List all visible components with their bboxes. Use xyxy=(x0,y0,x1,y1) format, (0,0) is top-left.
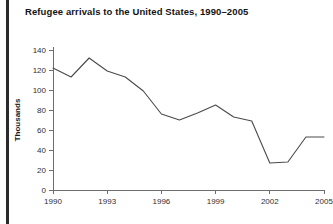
y-axis: 020406080100120140 xyxy=(33,46,53,195)
x-axis-tick-label: 2005 xyxy=(315,197,333,206)
y-axis-tick-label: 100 xyxy=(33,86,47,95)
x-axis-tick-label: 1990 xyxy=(44,197,62,206)
y-axis-label: Thousands xyxy=(13,98,22,141)
x-axis: 199019931996199920022005 xyxy=(44,190,333,206)
y-axis-tick-label: 60 xyxy=(37,126,46,135)
chart-figure: Refugee arrivals to the United States, 1… xyxy=(0,0,333,224)
y-axis-tick-label: 140 xyxy=(33,46,47,55)
line-chart-svg: 020406080100120140 199019931996199920022… xyxy=(0,0,333,224)
y-axis-tick-label: 40 xyxy=(37,146,46,155)
x-axis-tick-label: 2002 xyxy=(261,197,279,206)
y-axis-tick-label: 0 xyxy=(42,186,47,195)
x-axis-tick-label: 1999 xyxy=(207,197,225,206)
x-axis-tick-label: 1993 xyxy=(98,197,116,206)
y-axis-tick-label: 20 xyxy=(37,166,46,175)
x-axis-tick-label: 1996 xyxy=(153,197,171,206)
data-line-path xyxy=(53,58,324,163)
data-series-refugee-arrivals xyxy=(53,58,324,163)
plot-area: 020406080100120140 199019931996199920022… xyxy=(0,0,333,224)
y-axis-tick-label: 120 xyxy=(33,66,47,75)
y-axis-tick-label: 80 xyxy=(37,106,46,115)
